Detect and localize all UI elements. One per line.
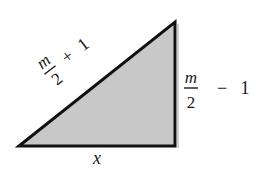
hyp-operator: + xyxy=(57,45,77,67)
leg-constant: 1 xyxy=(241,78,250,98)
hyp-constant: 1 xyxy=(73,33,92,54)
leg-operator: − xyxy=(217,78,227,98)
leg-numerator: m xyxy=(185,68,197,87)
hypotenuse-label: m 2 + 1 xyxy=(32,26,99,91)
hyp-denominator: 2 xyxy=(48,69,66,89)
leg-denominator: 2 xyxy=(187,93,196,112)
right-triangle-diagram: m 2 + 1 m 2 − 1 x xyxy=(0,0,268,169)
vertical-leg-label: m 2 − 1 xyxy=(184,68,250,112)
base-label: x xyxy=(92,148,101,168)
triangle-shape xyxy=(19,22,175,146)
